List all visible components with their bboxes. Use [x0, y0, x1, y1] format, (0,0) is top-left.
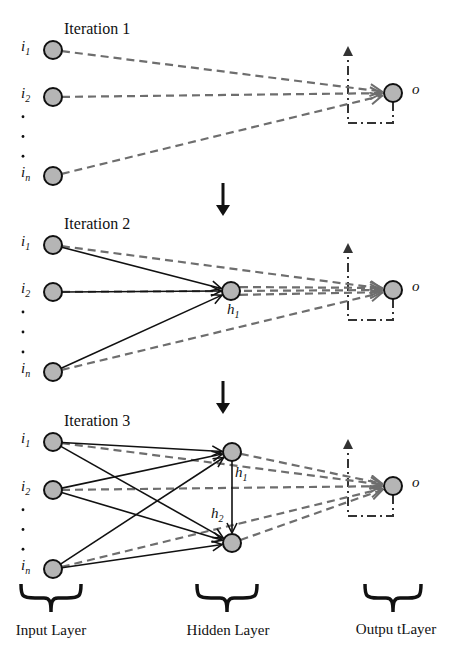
solid-edge — [61, 446, 223, 538]
solid-edge — [61, 295, 222, 368]
dashed-edge — [62, 51, 382, 91]
solid-edge — [62, 493, 223, 541]
ellipsis-dot — [22, 135, 25, 138]
hidden-node-label: h2 — [211, 505, 224, 524]
output-layer-label: Outpu tLayer — [356, 621, 436, 637]
ellipsis-dot — [22, 351, 25, 354]
solid-edge — [62, 291, 221, 292]
iteration-2: Iteration 2i1i2inh1o — [21, 215, 420, 381]
iteration-1: Iteration 1i1i2ino — [21, 20, 420, 185]
ellipsis-dot — [22, 528, 25, 531]
input-node — [44, 283, 62, 301]
dashed-edge — [62, 489, 383, 567]
output-node-label: o — [412, 474, 420, 490]
output-node — [384, 477, 402, 495]
input-node-label: i1 — [21, 233, 30, 252]
input-node-label: i2 — [21, 280, 30, 299]
input-node — [44, 433, 62, 451]
hidden-node — [222, 282, 240, 300]
input-node-label: i2 — [21, 478, 30, 497]
input-layer-label: Input Layer — [16, 622, 86, 638]
ellipsis-dot — [22, 155, 25, 158]
input-node — [44, 88, 62, 106]
iteration-title: Iteration 1 — [64, 20, 130, 37]
solid-edge — [62, 454, 222, 488]
solid-edge — [62, 443, 222, 452]
dashed-edge — [62, 486, 382, 490]
output-node — [384, 84, 402, 102]
iterations: Iteration 1i1i2inoIteration 2i1i2inh1oIt… — [21, 20, 420, 578]
input-node-label: in — [21, 164, 30, 183]
dashed-edge — [62, 96, 383, 174]
input-node — [44, 363, 62, 381]
dashed-edge — [62, 246, 382, 288]
ellipsis-dot — [22, 331, 25, 334]
input-node — [44, 481, 62, 499]
ellipsis-dot — [22, 311, 25, 314]
solid-edge — [62, 247, 222, 288]
down-arrow-2-icon — [216, 381, 230, 414]
cascade-correlation-diagram: Iteration 1i1i2inoIteration 2i1i2inh1oIt… — [0, 0, 461, 649]
output-node — [384, 281, 402, 299]
ellipsis-dot — [22, 548, 25, 551]
dashed-edge — [240, 287, 382, 288]
hidden-layer-brace — [197, 584, 257, 612]
output-layer-brace — [365, 584, 421, 612]
input-node-label: i2 — [21, 85, 30, 104]
hidden-node — [223, 534, 241, 552]
input-node-label: in — [21, 360, 30, 379]
input-node-label: i1 — [21, 430, 30, 449]
dashed-edge — [240, 490, 382, 540]
down-arrow-1-icon — [216, 183, 230, 216]
input-node — [44, 236, 62, 254]
output-node-label: o — [412, 81, 420, 97]
hidden-node — [223, 443, 241, 461]
ellipsis-dot — [22, 115, 25, 118]
iteration-title: Iteration 3 — [64, 412, 130, 429]
iteration-3: Iteration 3i1i2inh1h2o — [21, 412, 420, 578]
dashed-edge — [62, 93, 382, 97]
hidden-layer-label: Hidden Layer — [187, 622, 270, 638]
iteration-title: Iteration 2 — [64, 215, 130, 232]
input-layer-brace — [21, 584, 81, 612]
input-node-label: in — [21, 557, 30, 576]
dashed-edge — [62, 293, 383, 370]
dashed-edge — [240, 292, 382, 295]
ellipsis-dot — [22, 508, 25, 511]
output-node-label: o — [412, 278, 420, 294]
input-node — [44, 41, 62, 59]
input-node-label: i1 — [21, 38, 30, 57]
hidden-node-label: h1 — [227, 301, 240, 320]
input-node — [44, 560, 62, 578]
input-node — [44, 167, 62, 185]
